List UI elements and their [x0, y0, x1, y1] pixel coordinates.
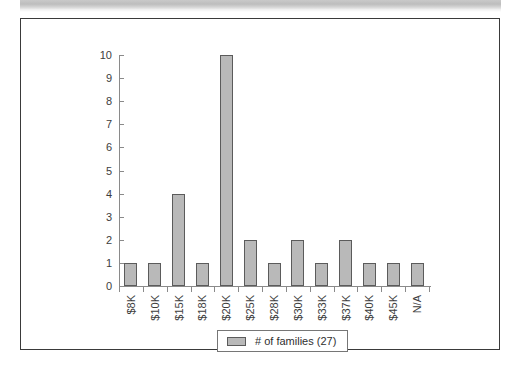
x-axis-tick-label: $45K: [393, 269, 404, 295]
x-axis-tick: [286, 287, 287, 292]
x-axis-tick: [238, 287, 239, 292]
chart-legend: # of families (27): [217, 330, 348, 352]
x-axis-tick-label: $18K: [202, 269, 213, 295]
y-axis-tick: [120, 263, 124, 264]
x-axis-tick-label: $15K: [179, 269, 190, 295]
x-axis-tick: [191, 287, 192, 292]
x-axis-tick-label: N/A: [417, 277, 428, 295]
x-axis-tick: [357, 287, 358, 292]
x-axis-tick: [310, 287, 311, 292]
x-axis-tick: [429, 287, 430, 292]
y-axis-tick-label: 2: [106, 234, 112, 245]
x-axis-tick-label: $20K: [226, 269, 237, 295]
y-axis-tick: [120, 286, 124, 287]
y-axis-tick: [120, 240, 124, 241]
y-axis-tick: [120, 101, 124, 102]
y-axis-tick-label: 7: [106, 119, 112, 130]
x-axis-tick: [214, 287, 215, 292]
y-axis-tick-label: 8: [106, 96, 112, 107]
y-axis-tick: [120, 124, 124, 125]
y-axis-tick: [120, 55, 124, 56]
y-axis-tick: [120, 78, 124, 79]
y-axis-tick-label: 6: [106, 142, 112, 153]
x-axis-tick: [119, 287, 120, 292]
x-axis-tick: [405, 287, 406, 292]
scan-artifact-fade: [20, 9, 501, 12]
y-axis-tick-label: 0: [106, 281, 112, 292]
x-axis-tick: [143, 287, 144, 292]
x-axis-tick-label: $33K: [322, 269, 333, 295]
y-axis-tick: [120, 147, 124, 148]
legend-swatch-icon: [227, 337, 246, 346]
y-axis-tick: [120, 217, 124, 218]
x-axis-tick: [334, 287, 335, 292]
x-axis-tick-label: $40K: [369, 269, 380, 295]
x-axis-tick-label: $30K: [298, 269, 309, 295]
x-axis-tick-label: $25K: [250, 269, 261, 295]
scan-artifact-band: [20, 0, 501, 9]
y-axis-tick-label: 4: [106, 188, 112, 199]
y-axis-tick-label: 1: [106, 257, 112, 268]
x-axis-tick: [381, 287, 382, 292]
y-axis-tick-label: 5: [106, 165, 112, 176]
y-axis-tick: [120, 171, 124, 172]
legend-entry-label: # of families (27): [255, 335, 336, 347]
y-axis-tick: [120, 194, 124, 195]
y-axis-tick-label: 10: [100, 50, 112, 61]
x-axis-tick-label: $10K: [155, 269, 166, 295]
y-axis-tick-label: 3: [106, 211, 112, 222]
x-axis-tick-label: $37K: [346, 269, 357, 295]
x-axis-tick-label: $28K: [274, 269, 285, 295]
x-axis-tick: [262, 287, 263, 292]
plot-area: 012345678910 $8K$10K$15K$18K$20K$25K$28K…: [119, 55, 429, 286]
bar: [220, 55, 233, 286]
x-axis-tick: [167, 287, 168, 292]
chart-frame: 012345678910 $8K$10K$15K$18K$20K$25K$28K…: [20, 18, 500, 350]
y-axis-tick-label: 9: [106, 73, 112, 84]
x-axis-tick-label: $8K: [131, 275, 142, 295]
